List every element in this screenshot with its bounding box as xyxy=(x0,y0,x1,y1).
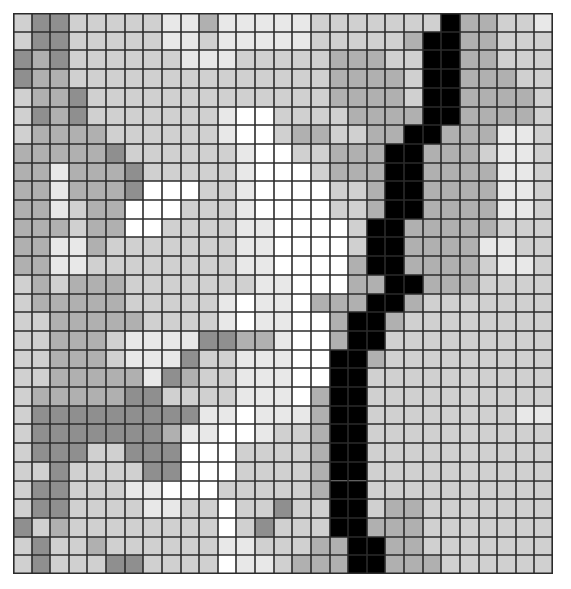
grid-cell xyxy=(142,162,161,181)
grid-cell xyxy=(515,293,534,312)
grid-cell xyxy=(105,68,124,87)
grid-cell xyxy=(459,68,478,87)
grid-cell xyxy=(12,554,31,573)
grid-cell xyxy=(161,218,180,237)
grid-cell xyxy=(496,124,515,143)
grid-cell xyxy=(68,218,87,237)
grid-cell xyxy=(291,180,310,199)
grid-cell xyxy=(31,461,50,480)
grid-cell xyxy=(49,199,68,218)
grid-cell xyxy=(329,274,348,293)
grid-cell xyxy=(459,367,478,386)
grid-cell xyxy=(384,162,403,181)
grid-cell xyxy=(87,106,106,125)
grid-cell xyxy=(440,218,459,237)
grid-cell xyxy=(329,311,348,330)
grid-cell xyxy=(236,423,255,442)
grid-cell xyxy=(87,367,106,386)
grid-cell xyxy=(347,199,366,218)
grid-cell xyxy=(105,143,124,162)
grid-cell xyxy=(124,218,143,237)
grid-cell xyxy=(384,274,403,293)
grid-cell xyxy=(236,180,255,199)
grid-cell xyxy=(496,498,515,517)
grid-cell xyxy=(142,386,161,405)
grid-cell xyxy=(459,124,478,143)
grid-cell xyxy=(217,554,236,573)
grid-cell xyxy=(180,479,199,498)
grid-cell xyxy=(124,255,143,274)
grid-cell xyxy=(180,106,199,125)
grid-cell xyxy=(329,386,348,405)
grid-cell xyxy=(329,87,348,106)
grid-cell xyxy=(236,461,255,480)
grid-cell xyxy=(68,87,87,106)
grid-cell xyxy=(68,50,87,69)
grid-cell xyxy=(347,535,366,554)
grid-cell xyxy=(142,554,161,573)
grid-cell xyxy=(105,87,124,106)
grid-cell xyxy=(496,405,515,424)
grid-cell xyxy=(496,218,515,237)
grid-cell xyxy=(198,554,217,573)
grid-cell xyxy=(31,330,50,349)
grid-cell xyxy=(31,68,50,87)
grid-cell xyxy=(310,143,329,162)
grid-cell xyxy=(440,162,459,181)
grid-cell xyxy=(254,479,273,498)
grid-cell xyxy=(347,87,366,106)
grid-cell xyxy=(198,386,217,405)
grid-cell xyxy=(291,349,310,368)
grid-cell xyxy=(217,180,236,199)
grid-cell xyxy=(477,405,496,424)
grid-cell xyxy=(477,124,496,143)
grid-cell xyxy=(68,330,87,349)
grid-cell xyxy=(496,535,515,554)
grid-cell xyxy=(440,423,459,442)
grid-cell xyxy=(180,535,199,554)
grid-cell xyxy=(477,461,496,480)
grid-cell xyxy=(347,31,366,50)
grid-cell xyxy=(254,180,273,199)
grid-cell xyxy=(440,367,459,386)
grid-cell xyxy=(198,367,217,386)
grid-cell xyxy=(515,311,534,330)
grid-cell xyxy=(217,236,236,255)
grid-cell xyxy=(31,255,50,274)
grid-cell xyxy=(515,535,534,554)
grid-cell xyxy=(87,124,106,143)
grid-cell xyxy=(515,180,534,199)
grid-cell xyxy=(422,479,441,498)
grid-cell xyxy=(31,423,50,442)
grid-cell xyxy=(384,68,403,87)
grid-cell xyxy=(496,330,515,349)
grid-cell xyxy=(12,87,31,106)
grid-cell xyxy=(124,442,143,461)
grid-cell xyxy=(198,255,217,274)
grid-cell xyxy=(105,162,124,181)
grid-cell xyxy=(49,349,68,368)
grid-cell xyxy=(236,199,255,218)
grid-cell xyxy=(403,143,422,162)
grid-cell xyxy=(515,68,534,87)
grid-cell xyxy=(142,349,161,368)
grid-cell xyxy=(180,87,199,106)
grid-cell xyxy=(273,349,292,368)
grid-cell xyxy=(87,498,106,517)
grid-cell xyxy=(366,367,385,386)
grid-cell xyxy=(273,386,292,405)
grid-cell xyxy=(12,423,31,442)
grid-cell xyxy=(422,311,441,330)
grid-cell xyxy=(291,106,310,125)
grid-container xyxy=(13,13,553,574)
grid-cell xyxy=(440,311,459,330)
grid-cell xyxy=(31,479,50,498)
grid-cell xyxy=(68,554,87,573)
grid-cell xyxy=(31,12,50,31)
grid-cell xyxy=(291,236,310,255)
grid-cell xyxy=(124,517,143,536)
grid-cell xyxy=(236,255,255,274)
grid-cell xyxy=(329,180,348,199)
grid-cell xyxy=(49,479,68,498)
grid-cell xyxy=(291,386,310,405)
